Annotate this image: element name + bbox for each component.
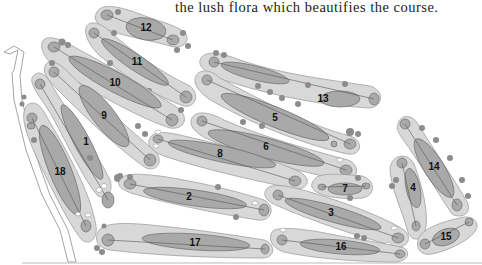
- hole-label-15: 15: [440, 231, 452, 242]
- hole-label-16: 16: [335, 241, 347, 252]
- hole-label-10: 10: [109, 77, 121, 88]
- hole-label-3: 3: [328, 207, 334, 218]
- hole-2[interactable]: [117, 173, 271, 220]
- hole-label-5: 5: [272, 112, 278, 123]
- hole-label-8: 8: [217, 148, 223, 159]
- hole-label-17: 17: [189, 237, 201, 248]
- hole-label-11: 11: [132, 56, 143, 67]
- hole-17[interactable]: [94, 224, 273, 259]
- hole-label-7: 7: [342, 183, 348, 194]
- hole-label-9: 9: [101, 110, 107, 121]
- hole-label-14: 14: [428, 161, 440, 172]
- hole-label-1: 1: [83, 136, 89, 147]
- hole-label-13: 13: [317, 93, 329, 104]
- hole-label-18: 18: [54, 166, 66, 177]
- hole-label-4: 4: [410, 182, 416, 193]
- hole-label-6: 6: [263, 141, 269, 152]
- hole-label-2: 2: [186, 191, 192, 202]
- golf-course-map: 1 2 3 4 5 6 7 8 9 10 11 12 13 14 15 16 1…: [0, 0, 482, 265]
- hole-label-12: 12: [140, 22, 152, 33]
